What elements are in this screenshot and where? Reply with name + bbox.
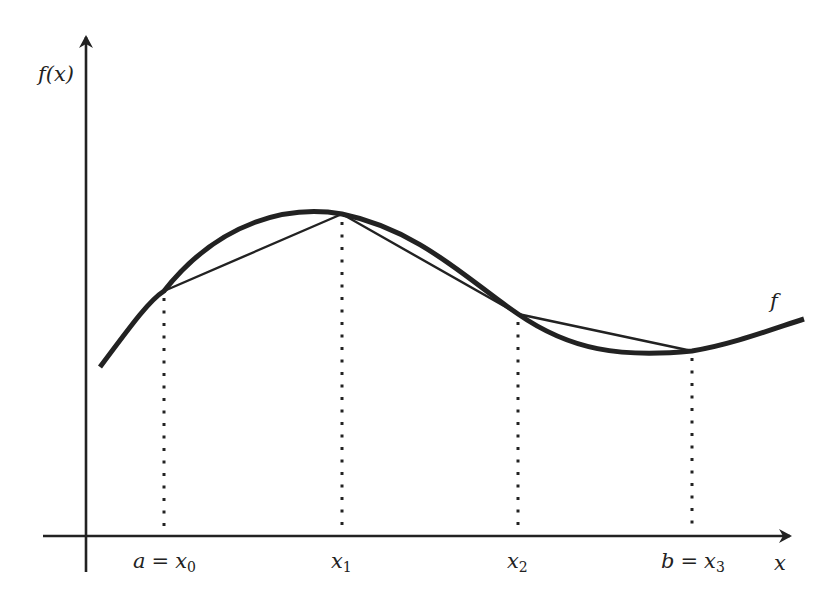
equals-sign: = [680,549,698,573]
tick-label-x2: x2 [507,551,528,574]
tick-subscript: 1 [343,559,352,575]
tick-subscript: 2 [519,559,528,575]
tick-label-x1: x1 [331,551,352,574]
diagram-canvas [0,0,828,594]
tick-subscript: 3 [716,559,725,575]
tick-label-x0: a=x0 [133,551,196,574]
equals-sign: = [152,549,170,573]
tick-var: b [661,549,674,573]
tick-var: a [133,549,146,573]
node-guides [164,222,692,532]
tick-base: x [331,549,343,573]
tick-base: x [175,549,187,573]
tick-subscript: 0 [187,559,196,575]
y-axis-label: f(x) [38,64,74,85]
tick-base: x [507,549,519,573]
curve-label: f [770,291,778,312]
piecewise-linear-interpolant [164,214,692,351]
curve-f [100,212,804,367]
tick-base: x [704,549,716,573]
tick-label-x3: b=x3 [661,551,725,574]
x-axis-label: x [774,553,786,574]
